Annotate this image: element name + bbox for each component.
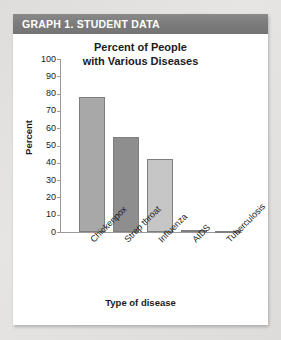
y-tick-mark: [57, 180, 61, 181]
y-tick-mark: [57, 146, 61, 147]
y-tick-mark: [57, 59, 61, 60]
plot-area: 0102030405060708090100 Percent Chickenpo…: [13, 14, 268, 325]
y-tick-mark: [57, 76, 61, 77]
y-tick-mark: [57, 128, 61, 129]
y-tick-label: 20: [27, 193, 56, 202]
y-tick-mark: [57, 111, 61, 112]
bar-chickenpox: [79, 97, 105, 232]
y-tick-label: 80: [27, 89, 56, 98]
y-tick-label: 90: [27, 72, 56, 81]
figure-card: GRAPH 1. STUDENT DATA Percent of People …: [13, 14, 268, 325]
y-tick-mark: [57, 94, 61, 95]
y-tick-mark: [57, 197, 61, 198]
y-tick-label: 10: [27, 210, 56, 219]
x-axis-title: Type of disease: [13, 297, 268, 308]
y-tick-mark: [57, 215, 61, 216]
y-tick-label: 30: [27, 176, 56, 185]
y-tick-label: 100: [27, 55, 56, 64]
y-axis-title: Percent: [23, 108, 34, 168]
category-label-aids: AIDS: [191, 223, 212, 244]
y-tick-mark: [57, 163, 61, 164]
y-tick-label: 0: [27, 228, 56, 237]
category-label-tuberculosis: Tuberculosis: [225, 202, 267, 244]
y-tick-mark: [57, 232, 61, 233]
